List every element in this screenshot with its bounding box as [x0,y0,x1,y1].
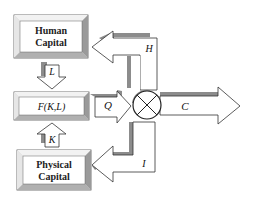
consumption-arrow: C [160,87,240,124]
capital-label: K [48,134,57,145]
consumption-label: C [181,100,189,112]
physical-investment-arrow: I [92,122,155,182]
physical-capital-box: Physical Capital [17,150,91,190]
capital-arrow: K [37,123,66,147]
human-investment-arrow: H [92,31,157,90]
production-function-box: F(K,L) [14,92,89,120]
physical-capital-label-line2: Capital [38,171,70,182]
physical-investment-label: I [141,158,146,169]
allocation-node [132,90,161,119]
human-capital-box: Human Capital [14,15,88,58]
labor-label: L [48,66,55,77]
output-label: Q [104,99,112,111]
labor-arrow: L [37,62,66,89]
physical-capital-label-line1: Physical [36,159,72,170]
production-function-label: F(K,L) [37,101,66,113]
human-capital-label-line2: Capital [35,37,67,48]
human-capital-label-line1: Human [35,25,68,36]
output-arrow: Q [90,90,131,123]
human-investment-label: H [144,43,153,54]
economic-growth-diagram: Human Capital F(K,L) Physical Capital L … [0,0,254,203]
